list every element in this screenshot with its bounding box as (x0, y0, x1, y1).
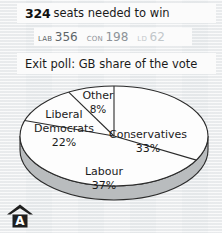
party-abbr-con: CON (87, 35, 103, 43)
label-other-value: 8% (90, 103, 107, 115)
vote-share-pie-chart: Conservatives 33% Labour 37% Liberal Dem… (18, 80, 210, 202)
home-a-icon[interactable]: A (6, 203, 34, 229)
exit-poll-graphic: 324 seats needed to win LAB 356 CON 198 … (0, 0, 222, 233)
label-other-name: Other (82, 89, 114, 102)
party-chip-con: CON 198 (87, 30, 129, 44)
home-roof-shape (7, 205, 33, 215)
exit-poll-title: Exit poll: GB share of the vote (25, 57, 197, 71)
party-seats-con: 198 (105, 30, 128, 44)
home-icon-letter: A (15, 214, 25, 228)
pie-chart-svg: Conservatives 33% Labour 37% Liberal Dem… (18, 80, 210, 202)
exit-poll-title-banner: Exit poll: GB share of the vote (17, 53, 216, 74)
party-chip-ld: LD 62 (137, 30, 164, 44)
label-conservatives-name: Conservatives (109, 128, 187, 141)
seats-needed-number: 324 (25, 6, 51, 21)
label-libdem-name-2: Democrats (34, 122, 94, 135)
party-seats-ld: 62 (150, 30, 165, 44)
label-labour-name: Labour (85, 165, 124, 178)
party-chip-lab: LAB 356 (38, 30, 78, 44)
party-abbr-ld: LD (137, 35, 147, 43)
label-conservatives-value: 33% (136, 142, 160, 155)
label-labour-value: 37% (92, 179, 116, 192)
seats-needed-banner: 324 seats needed to win (17, 3, 216, 23)
seats-needed-label: seats needed to win (54, 6, 170, 20)
party-abbr-lab: LAB (38, 35, 52, 43)
label-libdem-name-1: Liberal (45, 108, 82, 121)
home-a-icon-svg: A (6, 203, 34, 229)
party-seats-banner: LAB 356 CON 198 LD 62 (34, 28, 192, 46)
party-seats-lab: 356 (55, 30, 78, 44)
label-libdem-value: 22% (52, 136, 76, 149)
